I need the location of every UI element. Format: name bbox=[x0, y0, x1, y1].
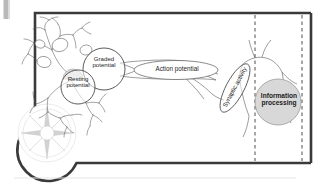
synaptic-activity-ellipse bbox=[214, 60, 255, 116]
information-processing-circle bbox=[255, 79, 301, 125]
page-edge-tab bbox=[4, 0, 11, 19]
neuron-diagram bbox=[0, 0, 323, 187]
action-potential-ellipse bbox=[134, 61, 218, 80]
figure-panel: Graded potential Resting potential Actio… bbox=[0, 0, 323, 187]
resting-potential-circle bbox=[61, 70, 95, 104]
